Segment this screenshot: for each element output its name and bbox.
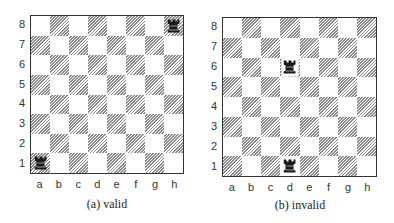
square-g5[interactable] [338,77,357,97]
square-c1[interactable] [261,156,280,176]
square-b1[interactable] [50,153,69,173]
square-c5[interactable] [69,75,88,95]
square-a6[interactable] [31,55,50,75]
square-h7[interactable] [164,36,183,56]
square-f6[interactable] [126,55,145,75]
square-f7[interactable] [126,36,145,56]
square-h2[interactable] [357,137,376,157]
square-b1[interactable] [242,156,261,176]
square-c4[interactable] [261,97,280,117]
square-c4[interactable] [69,95,88,115]
square-a7[interactable] [223,38,242,58]
square-e2[interactable] [107,134,126,154]
square-h5[interactable] [164,75,183,95]
square-e4[interactable] [300,97,319,117]
square-e7[interactable] [300,38,319,58]
square-g2[interactable] [338,137,357,157]
square-e3[interactable] [107,114,126,134]
square-b2[interactable] [50,134,69,154]
square-e2[interactable] [300,137,319,157]
square-g6[interactable] [338,58,357,78]
square-d5[interactable] [280,77,299,97]
square-h7[interactable] [357,38,376,58]
square-b7[interactable] [50,36,69,56]
square-f6[interactable] [319,58,338,78]
square-d6[interactable] [88,55,107,75]
square-g8[interactable] [145,16,164,36]
square-f2[interactable] [319,137,338,157]
square-c2[interactable] [69,134,88,154]
square-e8[interactable] [300,18,319,38]
square-g3[interactable] [338,117,357,137]
square-h1[interactable] [357,156,376,176]
square-a8[interactable] [31,16,50,36]
square-g8[interactable] [338,18,357,38]
square-a3[interactable] [223,117,242,137]
square-f3[interactable] [319,117,338,137]
square-a2[interactable] [31,134,50,154]
square-h3[interactable] [164,114,183,134]
square-d6[interactable] [280,58,299,78]
square-d4[interactable] [88,95,107,115]
square-b6[interactable] [50,55,69,75]
square-e1[interactable] [300,156,319,176]
square-g1[interactable] [145,153,164,173]
square-e4[interactable] [107,95,126,115]
piece-black-rook-h8[interactable] [166,17,181,34]
square-g5[interactable] [145,75,164,95]
square-b8[interactable] [242,18,261,38]
square-f4[interactable] [126,95,145,115]
square-h1[interactable] [164,153,183,173]
square-a1[interactable] [31,153,50,173]
square-c7[interactable] [261,38,280,58]
square-f1[interactable] [126,153,145,173]
square-e6[interactable] [300,58,319,78]
square-d1[interactable] [88,153,107,173]
square-h5[interactable] [357,77,376,97]
square-e7[interactable] [107,36,126,56]
square-f7[interactable] [319,38,338,58]
square-h4[interactable] [357,97,376,117]
square-b4[interactable] [50,95,69,115]
square-g1[interactable] [338,156,357,176]
square-e5[interactable] [300,77,319,97]
square-b5[interactable] [242,77,261,97]
square-f4[interactable] [319,97,338,117]
square-b3[interactable] [242,117,261,137]
square-a4[interactable] [223,97,242,117]
square-a2[interactable] [223,137,242,157]
square-g7[interactable] [145,36,164,56]
square-g7[interactable] [338,38,357,58]
square-f8[interactable] [319,18,338,38]
square-d8[interactable] [88,16,107,36]
square-c8[interactable] [69,16,88,36]
square-e3[interactable] [300,117,319,137]
square-h2[interactable] [164,134,183,154]
square-g3[interactable] [145,114,164,134]
square-h3[interactable] [357,117,376,137]
square-f8[interactable] [126,16,145,36]
square-h8[interactable] [164,16,183,36]
square-b3[interactable] [50,114,69,134]
square-d7[interactable] [88,36,107,56]
square-a4[interactable] [31,95,50,115]
square-b7[interactable] [242,38,261,58]
square-d3[interactable] [280,117,299,137]
square-g4[interactable] [145,95,164,115]
square-b2[interactable] [242,137,261,157]
square-a5[interactable] [223,77,242,97]
square-a3[interactable] [31,114,50,134]
square-h6[interactable] [357,58,376,78]
square-a1[interactable] [223,156,242,176]
square-g2[interactable] [145,134,164,154]
square-f2[interactable] [126,134,145,154]
square-c7[interactable] [69,36,88,56]
square-f1[interactable] [319,156,338,176]
square-h6[interactable] [164,55,183,75]
square-g4[interactable] [338,97,357,117]
square-d1[interactable] [280,156,299,176]
square-b4[interactable] [242,97,261,117]
square-f5[interactable] [126,75,145,95]
square-a7[interactable] [31,36,50,56]
square-h8[interactable] [357,18,376,38]
